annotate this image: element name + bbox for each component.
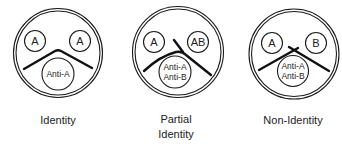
antibody-label-2: Anti-B xyxy=(163,72,186,82)
antibody-label-1: Anti-A xyxy=(281,61,304,71)
antibody-label: Anti-A xyxy=(46,69,69,79)
antigen-label-left: A xyxy=(150,36,158,48)
antigen-label-left: A xyxy=(268,37,276,49)
caption-line: Identity xyxy=(3,113,113,128)
antigen-label-right: A xyxy=(76,35,84,47)
caption-identity: Identity xyxy=(3,113,113,128)
antigen-label-left: A xyxy=(31,35,39,47)
partial-identity-diagram: A AB Anti-A Anti-B xyxy=(133,7,224,98)
caption-partial-identity: Partial Identity xyxy=(121,112,231,142)
caption-line-1: Partial xyxy=(121,112,231,127)
caption-line-2: Identity xyxy=(121,127,231,142)
identity-diagram: A A Anti-A xyxy=(14,9,103,98)
antibody-label-2: Anti-B xyxy=(281,71,304,81)
antibody-label-1: Anti-A xyxy=(163,62,186,72)
non-identity-diagram: A B Anti-A Anti-B xyxy=(249,9,339,99)
precipitin-spur xyxy=(174,40,183,52)
antigen-label-right: AB xyxy=(191,36,206,48)
caption-non-identity: Non-Identity xyxy=(238,113,342,128)
caption-line: Non-Identity xyxy=(238,113,342,128)
antigen-label-right: B xyxy=(312,37,319,49)
